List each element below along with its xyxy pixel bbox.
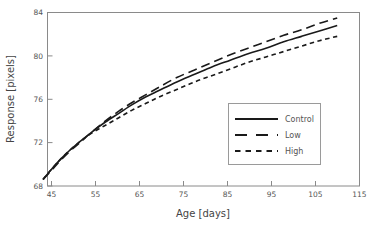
legend-label-control: Control — [285, 115, 314, 124]
chart-figure: 68 72 76 80 84 45 55 65 75 85 95 105 115 — [0, 0, 373, 227]
x-tick-label-105: 105 — [308, 190, 323, 199]
y-axis-title: Response [pixels] — [5, 55, 16, 143]
legend-label-high: High — [285, 147, 303, 156]
line-chart: 68 72 76 80 84 45 55 65 75 85 95 105 115 — [0, 0, 373, 227]
x-tick-label-55: 55 — [91, 190, 101, 199]
x-tick-label-85: 85 — [223, 190, 233, 199]
x-axis-title: Age [days] — [176, 208, 230, 219]
y-tick-label-72: 72 — [33, 138, 43, 147]
x-tick-label-95: 95 — [267, 190, 277, 199]
x-tick-label-75: 75 — [179, 190, 189, 199]
legend-box — [229, 104, 321, 165]
y-tick-label-68: 68 — [33, 182, 43, 191]
y-tick-label-84: 84 — [33, 8, 43, 17]
x-tick-label-115: 115 — [352, 190, 367, 199]
x-tick-label-45: 45 — [47, 190, 57, 199]
x-tick-label-65: 65 — [135, 190, 145, 199]
legend: Control Low High — [229, 104, 321, 165]
legend-label-low: Low — [285, 131, 301, 140]
y-tick-label-80: 80 — [33, 52, 43, 61]
y-tick-label-76: 76 — [33, 95, 43, 104]
